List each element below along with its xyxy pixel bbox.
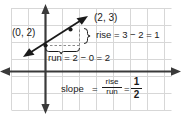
fraction-denominator-two: 2 bbox=[131, 89, 142, 100]
fraction-numerator-one: 1 bbox=[131, 77, 142, 88]
point-marker-0-2 bbox=[43, 43, 47, 47]
point-marker-2-3 bbox=[68, 27, 72, 31]
x-axis-arrow-left bbox=[0, 67, 10, 75]
point-label-2-3: (2, 3) bbox=[94, 13, 117, 23]
rise-equation-label: rise = 3 − 2 = 1 bbox=[96, 30, 160, 40]
fraction-denominator-run: run bbox=[102, 88, 122, 97]
slope-diagram-figure: (0, 2) (2, 3) rise = 3 − 2 = 1 run = 2 −… bbox=[0, 0, 185, 114]
rise-brace bbox=[85, 29, 91, 44]
y-axis-arrow-down bbox=[41, 104, 49, 114]
plotted-line-arrow-lower-left bbox=[23, 48, 35, 57]
point-label-0-2: (0, 2) bbox=[12, 28, 35, 38]
fraction-numerator-rise: rise bbox=[102, 78, 122, 87]
equals-sign-first: = bbox=[92, 84, 98, 94]
x-axis-arrow-right bbox=[171, 67, 181, 75]
slope-word-label: slope bbox=[61, 84, 84, 94]
equals-sign-second: = bbox=[124, 84, 130, 94]
run-equation-label: run = 2 − 0 = 2 bbox=[48, 53, 110, 63]
fraction-rise-over-run: rise run bbox=[102, 78, 122, 97]
plotted-line-arrow-upper-right bbox=[77, 16, 89, 25]
plotted-line bbox=[28, 19, 83, 54]
fraction-one-half: 1 2 bbox=[131, 77, 142, 100]
